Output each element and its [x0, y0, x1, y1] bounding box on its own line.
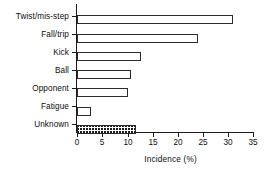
y-tick-0 [72, 16, 76, 17]
bar-kick [77, 52, 141, 61]
x-tick-label-5: 5 [89, 138, 115, 148]
bar-twist-mis-step [77, 15, 233, 24]
x-tick-25 [203, 133, 204, 137]
bar-fatigue [77, 107, 91, 116]
y-axis-label-twist-mis-step: Twist/mis-step [16, 12, 69, 21]
y-axis-label-unknown: Unknown [34, 120, 69, 129]
x-tick-15 [153, 133, 154, 137]
x-axis-title-text: Incidence (%) [144, 155, 197, 164]
y-axis-label-fatigue: Fatigue [41, 102, 69, 111]
y-tick-6 [72, 124, 76, 125]
x-tick-10 [128, 133, 129, 137]
y-axis-label-opponent: Opponent [32, 84, 69, 93]
x-tick-30 [228, 133, 229, 137]
y-tick-5 [72, 106, 76, 107]
y-tick-3 [72, 70, 76, 71]
x-tick-label-0: 0 [64, 138, 90, 148]
y-tick-1 [72, 34, 76, 35]
x-tick-label-30: 30 [215, 138, 241, 148]
x-tick-label-25: 25 [190, 138, 216, 148]
bar-fall-trip [77, 34, 198, 43]
x-tick-0 [77, 133, 78, 137]
x-tick-label-15: 15 [140, 138, 166, 148]
bar-ball [77, 70, 131, 79]
y-tick-4 [72, 88, 76, 89]
bar-opponent [77, 88, 128, 97]
x-tick-5 [102, 133, 103, 137]
x-axis-title: Incidence (%) [0, 155, 271, 164]
x-tick-label-10: 10 [115, 138, 141, 148]
y-tick-2 [72, 52, 76, 53]
x-tick-label-20: 20 [165, 138, 191, 148]
bar-chart: Twist/mis-step Fall/trip Kick Ball Oppon… [0, 0, 271, 175]
y-axis-label-ball: Ball [55, 66, 69, 75]
x-tick-35 [253, 133, 254, 137]
x-tick-20 [178, 133, 179, 137]
y-axis-label-fall-trip: Fall/trip [41, 30, 69, 39]
plot-area [77, 4, 253, 132]
x-tick-label-35: 35 [240, 138, 266, 148]
y-axis-label-kick: Kick [53, 48, 69, 57]
